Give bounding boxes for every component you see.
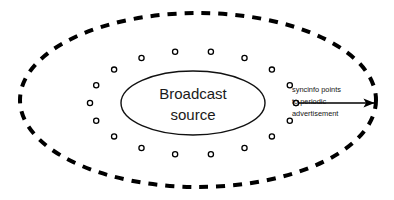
syncinfo-annotation-line2: to periodic xyxy=(292,97,326,106)
broadcast-source-label-line1: Broadcast xyxy=(159,85,227,102)
syncinfo-annotation-line3: advertisement xyxy=(292,109,338,118)
receiver-node-icon xyxy=(112,67,117,72)
syncinfo-annotation-line1: syncinfo points xyxy=(292,85,341,94)
receiver-node-icon xyxy=(208,49,213,54)
receiver-node-icon xyxy=(87,100,92,105)
receiver-node-icon xyxy=(269,134,274,139)
receiver-node-icon xyxy=(94,83,99,88)
receiver-node-icon xyxy=(94,118,99,123)
receiver-node-icon xyxy=(287,118,292,123)
receiver-node-icon xyxy=(173,49,178,54)
receiver-node-icon xyxy=(242,145,247,150)
receiver-node-icon xyxy=(269,67,274,72)
receiver-node-icon xyxy=(208,152,213,157)
broadcast-source-label-line2: source xyxy=(170,106,215,123)
broadcast-source-ellipse xyxy=(121,71,265,135)
diagram-canvas: Broadcast source syncinfo points to peri… xyxy=(0,0,394,200)
receiver-node-icon xyxy=(139,55,144,60)
receiver-node-icon xyxy=(173,152,178,157)
receiver-node-icon xyxy=(112,134,117,139)
diagram-svg: Broadcast source syncinfo points to peri… xyxy=(0,0,394,200)
receiver-node-icon xyxy=(139,145,144,150)
receiver-node-icon xyxy=(242,55,247,60)
